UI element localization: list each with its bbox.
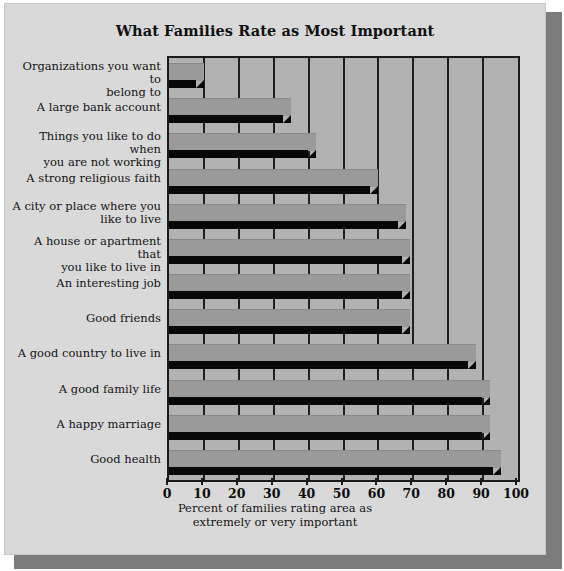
bar-face xyxy=(169,415,490,433)
figure-root: What Families Rate as Most Important Org… xyxy=(0,0,564,571)
category-label: Organizations you want tobelong to xyxy=(11,60,161,99)
category-label: A good family life xyxy=(11,383,161,396)
bar-row xyxy=(169,445,518,480)
x-tick-mark-10 xyxy=(201,478,203,485)
bar-shadow xyxy=(169,326,402,334)
category-label-line: Things you like to do when xyxy=(39,129,161,156)
bar-face xyxy=(169,204,406,222)
bar-row xyxy=(169,339,518,374)
x-tick-mark-50 xyxy=(341,478,343,485)
category-label: A strong religious faith xyxy=(11,172,161,185)
bar-row xyxy=(169,375,518,410)
category-label: Good health xyxy=(11,453,161,466)
bar-face xyxy=(169,98,291,116)
x-tick-mark-80 xyxy=(445,478,447,485)
x-tick-mark-90 xyxy=(480,478,482,485)
bar-bevel xyxy=(482,432,490,440)
bar-row xyxy=(169,93,518,128)
bar-face xyxy=(169,274,410,292)
category-label-line: you like to live in xyxy=(61,260,161,274)
bar-face xyxy=(169,169,378,187)
category-label: A house or apartment thatyou like to liv… xyxy=(11,235,161,274)
x-tick-label-90: 90 xyxy=(472,486,489,501)
category-label-line: A large bank account xyxy=(37,100,161,114)
bar-shadow xyxy=(169,361,468,369)
x-axis-caption-line1: Percent of families rating area as xyxy=(178,501,372,515)
plot-area xyxy=(167,56,520,482)
category-label-line: you are not working xyxy=(43,155,161,169)
x-axis-caption-line2: extremely or very important xyxy=(193,515,358,529)
bar-row xyxy=(169,128,518,163)
bar-row xyxy=(169,410,518,445)
category-label-line: A strong religious faith xyxy=(26,171,161,185)
bar-row xyxy=(169,58,518,93)
category-label-line: A city or place where you xyxy=(12,199,161,213)
category-label-line: Organizations you want to xyxy=(22,59,161,86)
category-label-line: A happy marriage xyxy=(56,417,161,431)
category-label-line: An interesting job xyxy=(56,276,161,290)
bar-shadow xyxy=(169,432,482,440)
category-label-line: Good health xyxy=(90,452,161,466)
bar-row xyxy=(169,234,518,269)
x-tick-mark-20 xyxy=(236,478,238,485)
bar-shadow xyxy=(169,150,308,158)
bar-shadow xyxy=(169,80,196,88)
category-label: A city or place where youlike to live xyxy=(11,200,161,226)
chart-card: What Families Rate as Most Important Org… xyxy=(4,3,546,555)
x-tick-label-0: 0 xyxy=(163,486,172,501)
category-label-line: like to live xyxy=(100,212,161,226)
bar-row xyxy=(169,199,518,234)
bar-face xyxy=(169,344,476,362)
bar-shadow xyxy=(169,467,493,475)
bar-shadow xyxy=(169,397,482,405)
bar-shadow xyxy=(169,221,398,229)
bar-shadow xyxy=(169,256,402,264)
bar-bevel xyxy=(196,80,204,88)
bar-face xyxy=(169,380,490,398)
bar-bevel xyxy=(468,361,476,369)
bar-bevel xyxy=(402,291,410,299)
x-tick-label-100: 100 xyxy=(503,486,529,501)
category-label: Good friends xyxy=(11,312,161,325)
bar-bevel xyxy=(308,150,316,158)
x-tick-mark-100 xyxy=(515,478,517,485)
x-tick-mark-0 xyxy=(166,478,168,485)
x-tick-label-10: 10 xyxy=(193,486,210,501)
x-tick-label-20: 20 xyxy=(228,486,245,501)
x-tick-label-30: 30 xyxy=(263,486,280,501)
bar-row xyxy=(169,269,518,304)
category-label-line: A good family life xyxy=(59,382,161,396)
bar-face xyxy=(169,450,501,468)
category-label: Things you like to do whenyou are not wo… xyxy=(11,130,161,169)
x-tick-label-80: 80 xyxy=(437,486,454,501)
category-label: A happy marriage xyxy=(11,418,161,431)
bar-face xyxy=(169,309,410,327)
category-label-line: belong to xyxy=(106,85,161,99)
x-tick-mark-30 xyxy=(271,478,273,485)
category-label-line: A house or apartment that xyxy=(34,234,161,261)
x-axis-caption: Percent of families rating area as extre… xyxy=(5,501,545,529)
bar-bevel xyxy=(402,256,410,264)
bar-face xyxy=(169,239,410,257)
bar-face xyxy=(169,133,316,151)
bar-row xyxy=(169,164,518,199)
category-label: A good country to live in xyxy=(11,347,161,360)
bar-row xyxy=(169,304,518,339)
category-label-line: Good friends xyxy=(86,311,161,325)
x-tick-label-60: 60 xyxy=(368,486,385,501)
x-tick-label-40: 40 xyxy=(298,486,315,501)
bar-shadow xyxy=(169,186,370,194)
bar-shadow xyxy=(169,115,283,123)
category-label-line: A good country to live in xyxy=(18,346,161,360)
x-tick-label-70: 70 xyxy=(403,486,420,501)
category-label: A large bank account xyxy=(11,101,161,114)
x-tick-mark-40 xyxy=(306,478,308,485)
category-label: An interesting job xyxy=(11,277,161,290)
x-tick-mark-70 xyxy=(410,478,412,485)
chart-title: What Families Rate as Most Important xyxy=(5,22,545,39)
bar-bevel xyxy=(482,397,490,405)
bar-face xyxy=(169,63,204,81)
bar-bevel xyxy=(493,467,501,475)
bar-shadow xyxy=(169,291,402,299)
bar-bevel xyxy=(402,326,410,334)
